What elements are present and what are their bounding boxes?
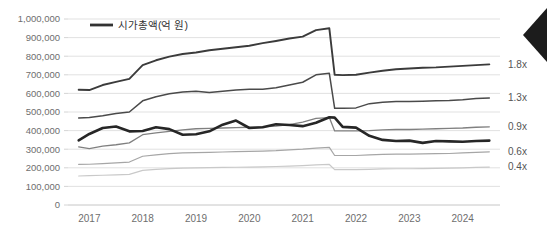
y-tick-label: 100,000 [26, 181, 60, 192]
x-tick-label: 2022 [345, 213, 368, 224]
legend-label: 시가총액(억 원) [118, 19, 188, 31]
series-line- [79, 117, 490, 143]
ratio-label-1-8x: 1.8x [508, 59, 527, 70]
chart-legend: 시가총액(억 원) [90, 19, 188, 31]
gridlines [68, 19, 500, 205]
data-series-lines [79, 28, 490, 176]
ratio-label-0-4x: 0.4x [508, 161, 527, 172]
x-axis-tick-labels: 20172018201920202021202220232024 [78, 213, 474, 224]
series-line-1.3x [79, 73, 490, 118]
y-tick-label: 900,000 [26, 32, 60, 43]
y-tick-label: 1,000,000 [18, 13, 60, 24]
series-line-0.6x [79, 147, 490, 164]
ratio-label-0-9x: 0.9x [508, 121, 527, 132]
x-tick-label: 2020 [238, 213, 261, 224]
y-tick-label: 300,000 [26, 144, 60, 155]
market-cap-line-chart: 0100,000200,000300,000400,000500,000600,… [0, 0, 547, 252]
x-tick-label: 2021 [292, 213, 315, 224]
x-tick-label: 2018 [132, 213, 155, 224]
y-tick-label: 200,000 [26, 162, 60, 173]
y-tick-label: 0 [55, 199, 60, 210]
y-tick-label: 700,000 [26, 69, 60, 80]
corner-chevron-icon [523, 8, 547, 62]
y-tick-label: 500,000 [26, 106, 60, 117]
series-line-0.9x [79, 118, 490, 149]
series-line-0.4x [79, 164, 490, 176]
x-tick-label: 2017 [78, 213, 101, 224]
x-tick-label: 2024 [452, 213, 475, 224]
ratio-label-1-3x: 1.3x [508, 92, 527, 103]
y-axis-tick-labels: 0100,000200,000300,000400,000500,000600,… [18, 13, 60, 210]
axis-tick-marks [64, 19, 68, 205]
ratio-label-0-6x: 0.6x [508, 146, 527, 157]
y-tick-label: 800,000 [26, 51, 60, 62]
series-ratio-labels: 1.8x1.3x0.9x0.6x0.4x [508, 59, 527, 173]
x-tick-label: 2019 [185, 213, 208, 224]
chart-canvas: 0100,000200,000300,000400,000500,000600,… [0, 0, 547, 252]
x-tick-label: 2023 [398, 213, 421, 224]
y-tick-label: 600,000 [26, 88, 60, 99]
y-tick-label: 400,000 [26, 125, 60, 136]
